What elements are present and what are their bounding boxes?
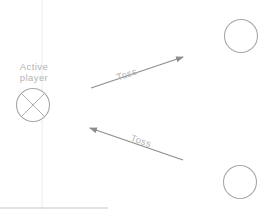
diagram-svg [0, 0, 264, 209]
active-player-label-line2: player [17, 72, 51, 83]
active-player-icon[interactable] [17, 89, 50, 122]
bottom-right-player-icon[interactable] [224, 166, 257, 199]
top-right-player-icon[interactable] [225, 20, 258, 53]
active-player-label-line1: Active [17, 61, 51, 72]
active-player-label: Active player [17, 61, 51, 83]
toss-diagram: Active player Toss Toss [0, 0, 264, 209]
